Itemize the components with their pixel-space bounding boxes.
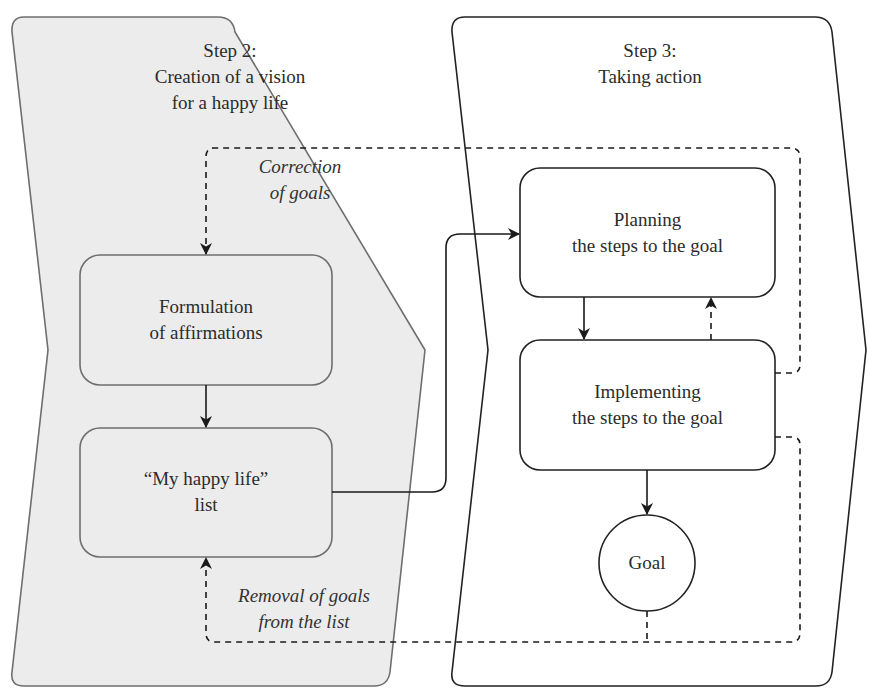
goal-label: Goal bbox=[599, 550, 695, 576]
formulation-label: Formulation of affirmations bbox=[80, 294, 332, 346]
implementing-label: Implementing the steps to the goal bbox=[520, 379, 775, 431]
removal-of-goals-label: Removal of goals from the list bbox=[214, 583, 394, 635]
planning-label: Planning the steps to the goal bbox=[520, 207, 775, 259]
correction-of-goals-label: Correction of goals bbox=[230, 154, 370, 206]
cropped-top-text bbox=[0, 0, 869, 6]
step2-title: Step 2: Creation of a vision for a happy… bbox=[100, 38, 360, 116]
step3-title: Step 3: Taking action bbox=[520, 38, 780, 90]
happy-list-label: “My happy life” list bbox=[80, 466, 332, 518]
